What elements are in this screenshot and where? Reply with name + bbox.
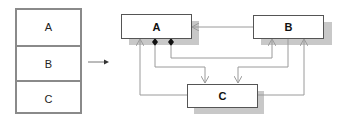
edge-a-to-c xyxy=(155,46,205,83)
node-c-label: C xyxy=(219,90,227,102)
node-c: C xyxy=(188,85,258,108)
node-b-label: B xyxy=(285,21,293,33)
node-a-label: A xyxy=(153,21,161,33)
transition-arrow-icon xyxy=(88,60,109,65)
node-a: A xyxy=(122,15,192,39)
class-diagram: A B C xyxy=(0,0,346,122)
node-b: B xyxy=(254,16,324,39)
